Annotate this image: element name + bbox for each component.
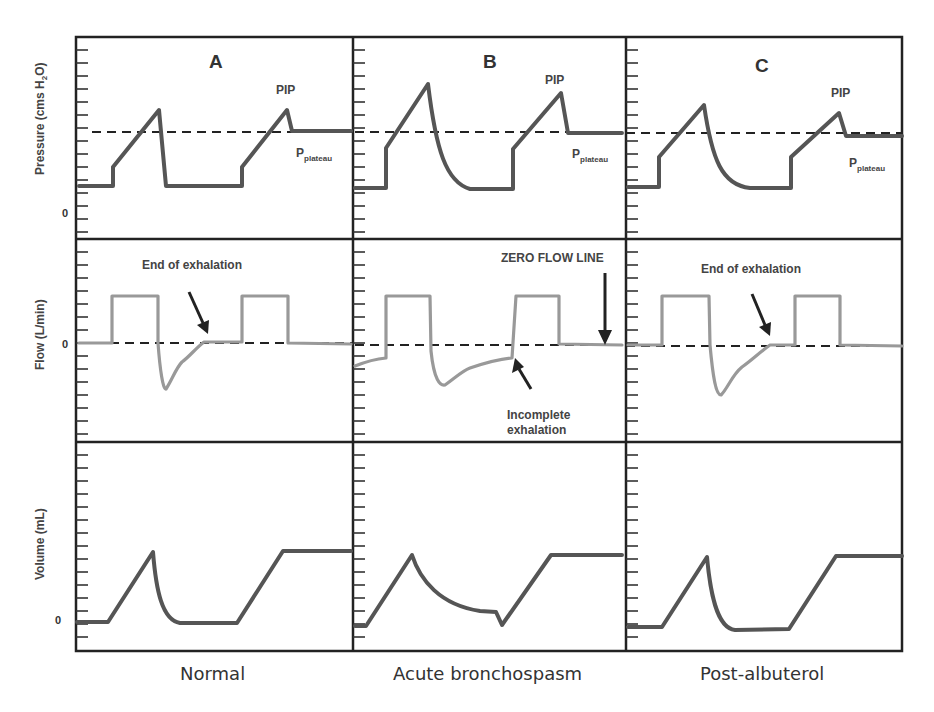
pressure-trace-a xyxy=(79,110,351,186)
y-axis-label-flow: Flow (L/min) xyxy=(33,299,47,370)
end-exhalation-arrow-a xyxy=(189,292,203,323)
caption-post-albuterol: Post-albuterol xyxy=(700,663,824,684)
end-exhalation-label-c: End of exhalation xyxy=(701,262,801,276)
flow-trace-a xyxy=(79,296,351,389)
volume-trace-a xyxy=(77,551,351,623)
y-axis-label-volume: Volume (mL) xyxy=(33,508,47,580)
incomplete-exhalation-arrow xyxy=(519,369,531,389)
pip-label-b: PIP xyxy=(545,73,564,87)
pressure-trace-c xyxy=(628,105,902,188)
end-exhalation-arrow-c xyxy=(752,294,765,325)
zero-label-flow: 0 xyxy=(62,338,68,350)
panel-letter-a: A xyxy=(209,51,223,72)
caption-normal: Normal xyxy=(180,663,245,684)
arrowhead-icon xyxy=(512,358,524,373)
pip-label-a: PIP xyxy=(276,83,295,97)
svg-text:Pressure (cms H2O): Pressure (cms H2O) xyxy=(33,62,49,175)
pip-label-c: PIP xyxy=(831,86,850,100)
volume-trace-c xyxy=(628,556,902,630)
panel-letter-b: B xyxy=(483,51,497,72)
waveform-figure: Pressure (cms H2O) Flow (L/min) Volume (… xyxy=(0,0,934,712)
incomplete-exhalation-label-1: Incomplete xyxy=(507,408,571,422)
arrowhead-icon xyxy=(598,330,612,345)
y-axis-label-pressure: Pressure (cms H2O) xyxy=(33,62,49,175)
zero-flow-line-label: ZERO FLOW LINE xyxy=(501,251,604,265)
pplateau-label-c: Pplateau xyxy=(849,156,885,173)
zero-label-pressure: 0 xyxy=(62,207,68,219)
zero-label-volume: 0 xyxy=(55,614,61,626)
panel-letter-c: C xyxy=(755,55,769,76)
pressure-trace-b xyxy=(355,84,622,189)
end-exhalation-label-a: End of exhalation xyxy=(142,258,242,272)
incomplete-exhalation-label-2: exhalation xyxy=(507,423,566,437)
flow-trace-b xyxy=(355,296,622,385)
caption-acute-bronchospasm: Acute bronchospasm xyxy=(393,663,582,684)
pplateau-label-b: Pplateau xyxy=(572,147,608,164)
volume-trace-b xyxy=(355,555,622,626)
pplateau-label-a: Pplateau xyxy=(296,146,332,163)
